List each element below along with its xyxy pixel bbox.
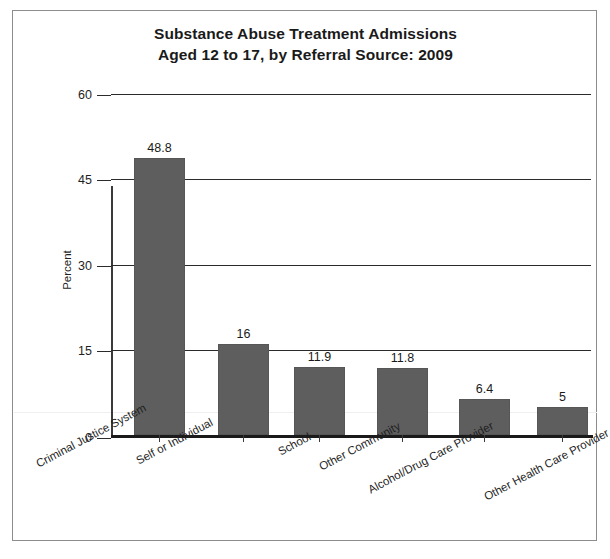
bar-other-health-care-provider[interactable]: 5 — [537, 407, 588, 435]
y-axis-label-60: 60 — [78, 88, 92, 102]
bar-value-criminal-justice-system: 48.8 — [147, 141, 171, 155]
bar-value-other-community: 11.8 — [391, 351, 414, 365]
bar-school[interactable]: 11.9 — [294, 367, 345, 435]
y-axis-line — [111, 186, 113, 435]
bar-value-self-or-individual: 16 — [237, 327, 251, 341]
gridline-60: 60 — [111, 94, 591, 95]
y-tick-0 — [97, 438, 111, 439]
y-axis-label-45: 45 — [78, 173, 92, 187]
y-axis-title: Percent — [61, 250, 73, 290]
x-tick-alcohol-drug-care-provider — [484, 435, 485, 442]
x-tick-school — [319, 435, 320, 442]
bar-value-other-health-care-provider: 5 — [559, 390, 566, 404]
bar-criminal-justice-system[interactable]: 48.8 — [134, 158, 185, 435]
y-tick-30 — [97, 266, 111, 267]
y-axis-label-30: 30 — [78, 259, 92, 273]
chart-page-frame: Substance Abuse Treatment Admissions Age… — [12, 10, 597, 541]
x-tick-other-community — [402, 435, 403, 442]
bar-self-or-individual[interactable]: 16 — [218, 344, 269, 435]
x-tick-other-health-care-provider — [562, 435, 563, 442]
chart-title-line-1: Substance Abuse Treatment Admissions — [13, 23, 598, 44]
x-tick-self-or-individual — [243, 435, 244, 442]
chart-title-line-2: Aged 12 to 17, by Referral Source: 2009 — [13, 44, 598, 65]
bar-value-school: 11.9 — [308, 350, 331, 364]
bar-value-alcohol-drug-care-provider: 6.4 — [476, 382, 493, 396]
chart-title: Substance Abuse Treatment Admissions Age… — [13, 23, 598, 65]
y-axis-label-15: 15 — [78, 344, 92, 358]
y-tick-15 — [97, 351, 111, 352]
y-tick-60 — [97, 95, 111, 96]
bar-chart-plot-area: Percent 60 45 30 15 0 48.8 16 — [111, 94, 591, 435]
y-tick-45 — [97, 180, 111, 181]
